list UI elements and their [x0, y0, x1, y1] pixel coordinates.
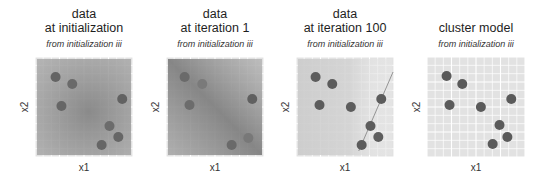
data-point — [185, 100, 195, 110]
data-point — [315, 100, 325, 110]
data-point — [327, 79, 337, 89]
title-line-1: data — [72, 7, 96, 21]
data-point — [247, 94, 257, 104]
x-axis-label: x1 — [35, 162, 133, 174]
panel-data-at-initialization: data at initialization from initializati… — [3, 0, 135, 181]
y-axis-label: x2 — [19, 101, 31, 113]
data-point — [113, 132, 123, 142]
data-point — [365, 121, 375, 131]
scatter-plot — [296, 57, 394, 157]
data-point — [56, 101, 66, 111]
data-point — [476, 102, 486, 112]
data-point — [97, 140, 107, 150]
title-line-1: data — [333, 7, 357, 21]
scatter-plot — [35, 57, 133, 157]
data-point — [346, 102, 356, 112]
data-point — [104, 121, 114, 131]
panel-subtitle: from initialization iii — [397, 38, 545, 50]
panel-data-at-iteration-1: data at iteration 1 from initialization … — [134, 0, 266, 181]
scatter-plot — [166, 57, 264, 157]
data-point — [506, 94, 516, 104]
panel-data-at-iteration-100: data at iteration 100 from initializatio… — [264, 0, 396, 181]
data-point — [180, 72, 190, 82]
data-point — [357, 140, 367, 150]
panel-title: cluster model — [397, 7, 545, 35]
x-axis-label: x1 — [427, 162, 525, 174]
title-line-2: at initialization — [45, 21, 124, 35]
data-point — [117, 94, 127, 104]
data-point — [373, 132, 383, 142]
data-point — [457, 79, 467, 89]
data-point — [442, 71, 452, 81]
title-line-2: at iteration 1 — [181, 21, 250, 35]
data-point — [445, 100, 455, 110]
data-point — [495, 120, 505, 130]
panel-cluster-model: cluster model from initialization iii x1… — [395, 0, 527, 181]
y-axis-label: x2 — [411, 101, 423, 113]
data-point — [197, 79, 207, 89]
data-point — [51, 72, 61, 82]
y-axis-label: x2 — [150, 101, 162, 113]
y-axis-label: x2 — [280, 101, 292, 113]
scatter-plot — [427, 57, 525, 157]
data-point — [311, 72, 321, 82]
data-point — [243, 133, 253, 143]
data-point — [227, 140, 237, 150]
title-line-1: data — [203, 7, 227, 21]
title-line-1: cluster model — [439, 21, 513, 35]
data-point — [376, 94, 386, 104]
data-point — [488, 139, 498, 149]
title-line-2: at iteration 100 — [304, 21, 387, 35]
data-point — [67, 79, 77, 89]
x-axis-label: x1 — [166, 162, 264, 174]
x-axis-label: x1 — [296, 162, 394, 174]
data-point — [502, 132, 512, 142]
